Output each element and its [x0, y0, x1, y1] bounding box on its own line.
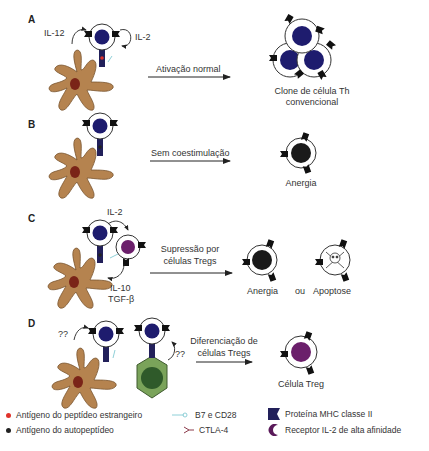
- black-dot-icon: [6, 428, 11, 433]
- legend-b7-cd28: B7 e CD28: [172, 410, 237, 420]
- arrow-label-a: Ativação normal: [156, 64, 221, 74]
- result-label-c-or: ou: [295, 286, 305, 296]
- unknown-label-left: ??: [58, 329, 68, 339]
- result-label-d: Célula Treg: [266, 379, 336, 389]
- panel-letter-c: C: [28, 213, 35, 224]
- legend-mhc-label: Proteína MHC classe II: [285, 409, 372, 419]
- result-label-c-apoptose: Apoptose: [313, 286, 351, 296]
- legend-foreign-antigen-label: Antígeno do peptídeo estrangeiro: [16, 410, 142, 420]
- panel-letter-d: D: [28, 318, 35, 329]
- legend-foreign-antigen: Antígeno do peptídeo estrangeiro: [6, 410, 142, 420]
- mhc-protein-icon: [268, 408, 280, 420]
- panel-letter-b: B: [28, 119, 35, 130]
- il2-receptor-icon: [268, 424, 280, 436]
- panel-letter-a: A: [28, 14, 35, 25]
- legend-b7-cd28-label: B7 e CD28: [195, 410, 237, 420]
- legend-il2r-label: Receptor IL-2 de alta afinidade: [285, 425, 401, 435]
- arrow-label-d-line1: Diferenciação de: [184, 336, 264, 346]
- result-label-b: Anergia: [271, 178, 331, 188]
- red-dot-icon: [6, 413, 11, 418]
- cytokine-tgfb-label: TGF-β: [108, 294, 134, 304]
- result-label-a-line1: Clone de célula Th: [262, 86, 362, 96]
- result-label-c-anergia: Anergia: [247, 286, 278, 296]
- arrow-label-b: Sem coestimulação: [151, 148, 230, 158]
- result-label-a-line2: convencional: [262, 97, 362, 107]
- legend-ctla4: CTLA-4: [184, 425, 228, 435]
- legend-self-antigen: Antígeno do autopeptídeo: [6, 425, 114, 435]
- cytokine-il10-label: IL-10: [110, 283, 131, 293]
- legend-ctla4-label: CTLA-4: [199, 425, 228, 435]
- legend-il2r: Receptor IL-2 de alta afinidade: [268, 424, 401, 436]
- arrow-label-c-line1: Supressão por: [150, 244, 230, 254]
- arrow-label-d-line2: células Tregs: [184, 348, 264, 358]
- arrow-label-c-line2: células Tregs: [150, 256, 230, 266]
- cytokine-il12-label: IL-12: [44, 28, 65, 38]
- cytokine-il2-label: IL-2: [135, 32, 151, 42]
- ctla4-icon: [184, 426, 194, 434]
- b7-cd28-icon: [172, 411, 190, 419]
- cytokine-il2-label-c: IL-2: [107, 207, 123, 217]
- legend-mhc: Proteína MHC classe II: [268, 408, 372, 420]
- legend-self-antigen-label: Antígeno do autopeptídeo: [16, 425, 114, 435]
